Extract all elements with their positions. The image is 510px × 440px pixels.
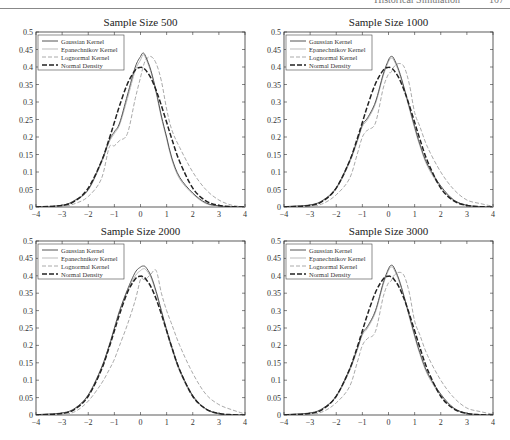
y-tick-label: 0.35 <box>19 81 33 90</box>
x-tick-label: 1 <box>165 210 169 219</box>
y-tick-label: 0.2 <box>271 341 281 350</box>
y-tick-label: 0.25 <box>267 116 281 125</box>
chart-panel-3: Sample Size 200000.050.10.150.20.250.30.… <box>19 225 247 427</box>
y-tick-label: 0.25 <box>19 116 33 125</box>
legend-label: Gaussian Kernel <box>61 38 104 45</box>
legend-label: Lognormal Kernel <box>309 54 357 61</box>
legend-label: Gaussian Kernel <box>309 247 352 254</box>
y-tick-label: 0.05 <box>19 394 33 403</box>
y-tick-label: 0.35 <box>19 289 33 298</box>
legend-label: Epanechnikov Kernel <box>309 46 366 53</box>
legend-label: Gaussian Kernel <box>61 247 104 254</box>
series-normal-density <box>284 67 493 207</box>
y-tick-label: 0.45 <box>19 46 33 55</box>
y-tick-label: 0.3 <box>23 98 33 107</box>
y-tick-label: 0.35 <box>267 81 281 90</box>
x-tick-label: 0 <box>139 210 143 219</box>
y-tick-label: 0.5 <box>23 237 33 246</box>
legend: Gaussian KernelEpanechnikov KernelLognor… <box>38 35 124 70</box>
x-tick-label: 2 <box>439 418 443 427</box>
chart-title: Sample Size 2000 <box>101 225 181 237</box>
y-tick-label: 0.4 <box>271 272 281 281</box>
x-tick-label: −1 <box>110 418 119 427</box>
x-tick-label: −1 <box>358 210 367 219</box>
y-tick-label: 0.5 <box>271 237 281 246</box>
x-tick-label: 2 <box>439 210 443 219</box>
y-tick-label: 0.1 <box>23 376 33 385</box>
legend-label: Normal Density <box>309 62 351 69</box>
x-tick-label: 3 <box>217 210 221 219</box>
series-lognormal-kernel <box>284 272 493 415</box>
series-epanechnikov-kernel <box>36 269 245 415</box>
y-tick-label: 0.3 <box>23 307 33 316</box>
y-tick-label: 0.25 <box>267 324 281 333</box>
legend-label: Epanechnikov Kernel <box>61 255 118 262</box>
legend: Gaussian KernelEpanechnikov KernelLognor… <box>38 244 124 279</box>
y-tick-label: 0.2 <box>23 341 33 350</box>
figure-four-panels: Sample Size 50000.050.10.150.20.250.30.3… <box>0 0 510 440</box>
x-tick-label: −3 <box>58 418 67 427</box>
legend-label: Epanechnikov Kernel <box>61 46 118 53</box>
legend-label: Lognormal Kernel <box>61 54 109 61</box>
x-tick-label: 4 <box>491 210 495 219</box>
y-tick-label: 0.5 <box>271 28 281 37</box>
y-tick-label: 0.05 <box>267 186 281 195</box>
y-tick-label: 0.1 <box>271 376 281 385</box>
series-lognormal-kernel <box>36 270 245 415</box>
x-tick-label: 1 <box>413 418 417 427</box>
legend: Gaussian KernelEpanechnikov KernelLognor… <box>286 35 372 70</box>
series-gaussian-kernel <box>284 56 493 207</box>
x-tick-label: −2 <box>332 418 341 427</box>
y-tick-label: 0.25 <box>19 324 33 333</box>
series-normal-density <box>284 276 493 415</box>
x-tick-label: −2 <box>332 210 341 219</box>
x-tick-label: −3 <box>58 210 67 219</box>
y-tick-label: 0.05 <box>19 186 33 195</box>
y-tick-label: 0.3 <box>271 307 281 316</box>
legend-label: Normal Density <box>309 271 351 278</box>
legend: Gaussian KernelEpanechnikov KernelLognor… <box>286 244 372 279</box>
x-tick-label: 1 <box>165 418 169 427</box>
x-tick-label: −4 <box>280 210 289 219</box>
y-tick-label: 0.3 <box>271 98 281 107</box>
legend-label: Normal Density <box>61 62 103 69</box>
legend-label: Normal Density <box>61 271 103 278</box>
y-tick-label: 0.4 <box>23 63 33 72</box>
x-tick-label: −4 <box>32 210 41 219</box>
x-tick-label: 2 <box>191 210 195 219</box>
y-tick-label: 0.45 <box>267 254 281 263</box>
series-normal-density <box>36 276 245 415</box>
y-tick-label: 0.1 <box>23 168 33 177</box>
legend-label: Lognormal Kernel <box>309 263 357 270</box>
y-tick-label: 0.15 <box>19 151 33 160</box>
x-tick-label: 4 <box>491 418 495 427</box>
legend-label: Gaussian Kernel <box>309 38 352 45</box>
y-tick-label: 0.35 <box>267 289 281 298</box>
x-tick-label: 0 <box>387 418 391 427</box>
y-tick-label: 0.4 <box>271 63 281 72</box>
chart-panel-4: Sample Size 300000.050.10.150.20.250.30.… <box>267 225 495 427</box>
y-tick-label: 0.2 <box>271 133 281 142</box>
x-tick-label: 3 <box>465 210 469 219</box>
x-tick-label: 4 <box>243 418 247 427</box>
x-tick-label: 0 <box>387 210 391 219</box>
y-tick-label: 0.15 <box>267 359 281 368</box>
x-tick-label: 4 <box>243 210 247 219</box>
y-tick-label: 0.15 <box>267 151 281 160</box>
y-tick-label: 0.2 <box>23 133 33 142</box>
chart-title: Sample Size 1000 <box>349 16 429 28</box>
x-tick-label: −3 <box>306 210 315 219</box>
x-tick-label: −2 <box>84 418 93 427</box>
x-tick-label: −4 <box>280 418 289 427</box>
x-tick-label: −4 <box>32 418 41 427</box>
series-epanechnikov-kernel <box>36 55 245 207</box>
y-tick-label: 0.05 <box>267 394 281 403</box>
chart-panel-1: Sample Size 50000.050.10.150.20.250.30.3… <box>19 16 247 219</box>
x-tick-label: −2 <box>84 210 93 219</box>
x-tick-label: −1 <box>110 210 119 219</box>
x-tick-label: 1 <box>413 210 417 219</box>
y-tick-label: 0.5 <box>23 28 33 37</box>
y-tick-label: 0.1 <box>271 168 281 177</box>
series-epanechnikov-kernel <box>284 267 493 415</box>
x-tick-label: 0 <box>139 418 143 427</box>
